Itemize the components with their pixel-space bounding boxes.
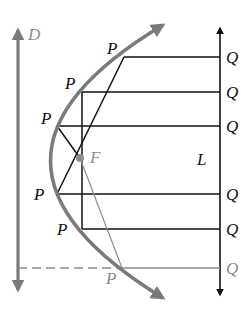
parabola-curve (51, 25, 164, 298)
label-L: L (196, 150, 206, 169)
label-P-1: P (106, 39, 117, 58)
label-Q-1: Q (226, 48, 238, 67)
label-Q-6: Q (226, 259, 238, 278)
label-Q-4: Q (226, 185, 238, 204)
label-P-4: P (33, 185, 44, 204)
label-Q-5: Q (226, 220, 238, 239)
label-P-3: P (40, 109, 51, 128)
label-D: D (27, 25, 41, 44)
label-P-6: P (105, 269, 116, 288)
segment-P3-F (57, 126, 80, 158)
label-F: F (89, 148, 101, 167)
label-P-5: P (56, 220, 67, 239)
label-Q-3: Q (226, 117, 238, 136)
label-P-2: P (64, 74, 75, 93)
diagram-canvas: D F L P P P P P P Q Q Q Q Q Q (0, 0, 247, 309)
label-Q-2: Q (226, 83, 238, 102)
focus-point (76, 154, 84, 162)
parabola-diagram: D F L P P P P P P Q Q Q Q Q Q (0, 0, 247, 309)
